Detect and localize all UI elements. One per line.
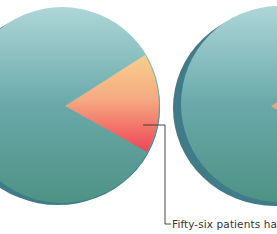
- pie-charts-figure: [0, 0, 277, 234]
- right-pie-body: [181, 6, 277, 202]
- right-pie-chart: [173, 6, 277, 206]
- annotation-caption: Fifty-six patients had con: [172, 218, 277, 230]
- left-pie-chart: [0, 7, 160, 205]
